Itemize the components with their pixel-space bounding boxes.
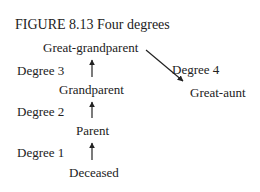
arrow-degree-4: [146, 50, 183, 81]
diagram-arrows: [0, 0, 260, 192]
